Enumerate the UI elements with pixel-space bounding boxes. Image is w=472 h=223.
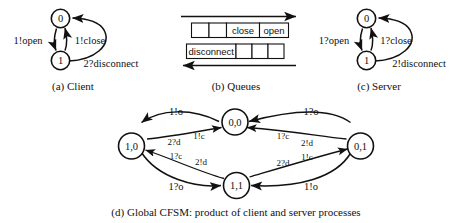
server-state-1-label: 1: [364, 55, 369, 66]
client-edge-open: [54, 29, 56, 51]
queue-top-cell-2-label: close: [232, 25, 254, 36]
queue-bottom: disconnect: [187, 44, 285, 59]
global-edge-01-to-00-inner: [247, 128, 347, 140]
server-label-disconnect: 2!disconnect: [392, 58, 446, 69]
queue-bottom-cell-2[interactable]: [252, 44, 268, 59]
client-label-open: 1!open: [13, 35, 43, 46]
global-label-01-00-b: 2!d: [301, 138, 313, 148]
global-caption: (d) Global CFSM: product of client and s…: [111, 206, 360, 219]
global-label-11-10-b: 2!d: [195, 157, 207, 167]
client-state-1-label: 1: [58, 55, 63, 66]
global-edge-11-to-01: [250, 149, 348, 177]
global-label-00-10: 1!o: [169, 106, 183, 117]
global-label-01-11: 1!o: [304, 181, 318, 192]
global-label-11-01-b: 1!c: [301, 152, 313, 162]
global-label-11-01-a: 2?d: [277, 158, 290, 168]
queue-top-cell-3-label: open: [263, 25, 284, 36]
server-caption: (c) Server: [357, 80, 401, 93]
panel-client: 0 1 1!open 1!close 2?disconnect (a) Clie…: [13, 9, 138, 93]
server-state-0-label: 0: [364, 13, 369, 24]
client-edge-close: [65, 28, 67, 51]
global-label-10-11: 1?o: [168, 181, 183, 192]
server-edge-close: [371, 28, 373, 51]
global-label-10-00-b: 2?d: [168, 137, 181, 147]
figure-container: 0 1 1!open 1!close 2?disconnect (a) Clie…: [0, 0, 472, 223]
client-label-close: 1!close: [75, 35, 106, 46]
global-state-10-label: 1,0: [125, 141, 138, 152]
global-state-11-label: 1,1: [230, 180, 243, 191]
queue-top-cell-0[interactable]: [192, 23, 210, 38]
global-edge-01-to-00: [249, 112, 351, 123]
client-caption: (a) Client: [52, 80, 94, 93]
client-label-disconnect: 2?disconnect: [84, 58, 139, 69]
global-label-10-00-a: 1!c: [193, 131, 205, 141]
server-edge-open: [360, 29, 362, 51]
queue-top: close open: [192, 23, 289, 38]
panel-queues: close open disconnect (b) Queues: [181, 17, 296, 94]
global-state-01-label: 0,1: [354, 141, 367, 152]
global-edge-10-to-00: [147, 128, 222, 140]
queue-bottom-cell-1[interactable]: [236, 44, 252, 59]
client-state-0-label: 0: [58, 13, 63, 24]
global-edge-11-to-10: [146, 150, 225, 179]
queues-caption: (b) Queues: [212, 80, 261, 93]
global-label-11-10-a: 1?c: [170, 151, 183, 161]
queue-bottom-cell-3[interactable]: [268, 44, 284, 59]
panel-server: 0 1 1?open 1?close 2!disconnect (c) Serv…: [319, 9, 446, 93]
global-label-01-00-a: 1?c: [277, 131, 290, 141]
queue-bottom-cell-0-label: disconnect: [188, 46, 234, 57]
server-label-close: 1?close: [380, 35, 412, 46]
panel-global-cfsm: 0,0 1,0 0,1 1,1 1!o 1?o 2?d 1!c 1?c 2!d …: [111, 106, 373, 220]
figure-svg: 0 1 1!open 1!close 2?disconnect (a) Clie…: [0, 0, 472, 223]
global-label-01-00: 1?o: [303, 106, 318, 117]
server-label-open: 1?open: [319, 35, 350, 46]
queue-top-cell-1[interactable]: [209, 23, 227, 38]
global-state-00-label: 0,0: [228, 117, 241, 128]
